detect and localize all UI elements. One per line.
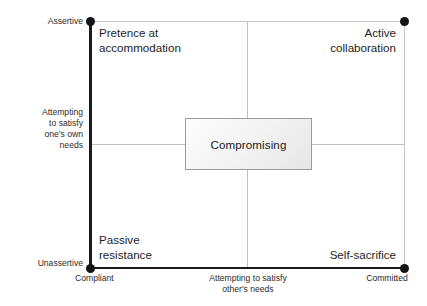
corner-dot-bottom-left [86, 264, 95, 273]
quadrant-label-bottom-right: Self-sacrifice [330, 247, 396, 262]
corner-dot-top-right [400, 17, 409, 26]
x-axis-low-label: Compliant [75, 273, 114, 284]
x-axis-line [90, 267, 405, 270]
conflict-mode-grid-figure: Pretence at accommodation Active collabo… [0, 0, 427, 306]
corner-dot-top-left [86, 17, 95, 26]
corner-dot-bottom-right [400, 264, 409, 273]
y-axis-title: Attempting to satisfy one's own needs [42, 107, 83, 151]
y-axis-line [89, 20, 92, 269]
quadrant-label-top-right: Active collaboration [330, 25, 396, 55]
quadrant-label-top-left: Pretence at accommodation [99, 25, 181, 55]
compromising-box: Compromising [185, 118, 312, 170]
compromising-box-label: Compromising [211, 138, 287, 151]
y-axis-high-label: Assertive [48, 16, 83, 27]
quadrant-label-bottom-left: Passive resistance [99, 232, 152, 262]
x-axis-high-label: Committed [357, 273, 417, 284]
x-axis-title: Attempting to satisfy other's needs [185, 273, 311, 295]
y-axis-low-label: Unassertive [38, 258, 83, 269]
